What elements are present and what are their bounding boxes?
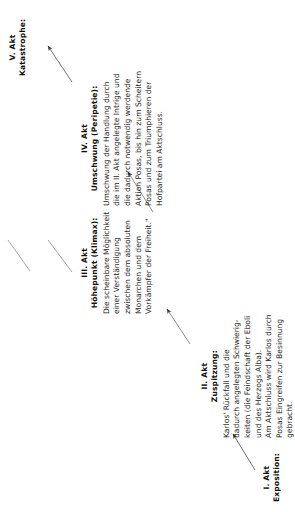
act-2-body-line: keiten (die Feindschaft der Eboli [243,314,254,438]
pyramid-rising-line [48,240,72,272]
act-block-5: V. Akt Katastrophe: [8,19,29,76]
arrow-act4-to-act5 [48,46,72,82]
act-4-body-line: Posas und zum Triumphieren der [144,71,155,206]
act-2-body-line: und des Herzogs Alba). [254,314,265,438]
act-3-title: Höhepunkt (Klimax): [90,212,100,314]
act-2-title: Zuspitzung: [210,314,220,438]
act-4-body-line: die im II. Akt angelegte Intrige und [112,71,123,206]
act-4-title: Umschwung (Peripetie): [90,71,100,206]
act-3-body-line: einer Verständigung [112,212,123,314]
act-3-body-line: Vorkämpfer der Freiheit." [144,212,155,314]
act-5-title: Katastrophe: [18,19,28,76]
act-2-body-line: Karlos' Rückfall und die [222,314,233,438]
act-3-label: III. Akt [80,212,90,314]
act-4-body-line: Hofpartei am Aktschluss. [155,71,166,206]
act-4-body-line: die dadurch notwendig werdende [123,71,134,206]
act-4-label: IV. Akt [80,71,90,206]
act-3-body: Die scheinbare Möglichkeit einer Verstän… [102,212,155,314]
pyramid-falling-line [8,240,30,271]
act-4-body: Umschwung der Handlung durch die im II. … [102,71,166,206]
act-block-1: I. Akt Exposition: [262,453,283,502]
act-2-body-line: Posas Eingreifen zur Besinnung [275,314,284,438]
arrow-act2-to-act3 [167,309,190,344]
act-3-body-line: Monarchen und dem [134,212,145,314]
act-3-body-line: Die scheinbare Möglichkeit [102,212,113,314]
act-4-body-line: Umschwung der Handlung durch [102,71,113,206]
act-1-title: Exposition: [272,453,282,502]
act-4-body-line: Aktion Posas, bis hin zum Scheitern [134,71,145,206]
arrow-act1-to-act2 [233,434,255,470]
act-2-body: Karlos' Rückfall und die dadurch angeleg… [222,314,284,438]
act-2-body-line: dadurch angelegten Schwierig- [232,314,243,438]
diagram-canvas: I. Akt Exposition: II. Akt Zuspitzung: K… [0,0,284,512]
act-2-body-line: Am Aktschluss wird Karlos durch [264,314,275,438]
act-5-label: V. Akt [8,19,18,76]
act-block-3: III. Akt Höhepunkt (Klimax): Die scheinb… [80,212,155,314]
act-block-4: IV. Akt Umschwung (Peripetie): Umschwung… [80,71,165,206]
act-block-2: II. Akt Zuspitzung: Karlos' Rückfall und… [200,314,284,438]
act-2-label: II. Akt [200,314,210,438]
act-3-body-line: zwischen dem absoluten [123,212,134,314]
act-1-label: I. Akt [262,453,272,502]
